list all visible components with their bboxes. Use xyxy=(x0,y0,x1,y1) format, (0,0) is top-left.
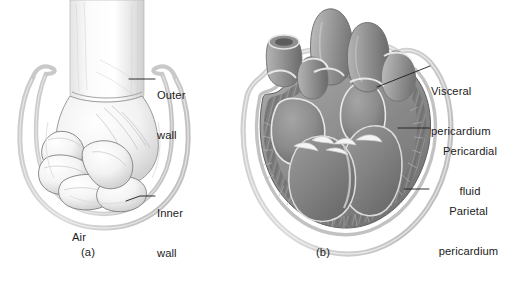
caption-panel-a: (a) xyxy=(81,246,95,258)
fist-balloon-illustration xyxy=(0,0,250,281)
label-parietal-pericardium: Parietal pericardium xyxy=(428,179,509,281)
label-visceral-line1: Visceral xyxy=(431,85,491,98)
label-outer-wall-line2: wall xyxy=(157,129,185,142)
caption-panel-b: (b) xyxy=(316,246,330,258)
label-outer-wall-line1: Outer xyxy=(157,89,185,102)
label-outer-wall: Outer wall xyxy=(157,63,185,169)
panel-b-heart-pericardium: Visceral pericardium Pericardial fluid P… xyxy=(238,0,509,281)
label-inner-wall-line1: Inner xyxy=(157,207,183,220)
label-parietal-line2: pericardium xyxy=(428,245,509,258)
panel-a-fist-balloon: Outer wall Inner wall Air (a) xyxy=(0,0,250,281)
vessel-pulmonary-vein-left xyxy=(298,57,329,99)
label-air-text: Air xyxy=(72,231,91,244)
figure-container: Outer wall Inner wall Air (a) xyxy=(0,0,509,281)
label-inner-wall: Inner wall xyxy=(157,181,183,281)
label-parietal-line1: Parietal xyxy=(428,205,509,218)
vessel-svc-opening xyxy=(275,38,293,46)
label-air: Air xyxy=(72,205,91,271)
label-inner-wall-line2: wall xyxy=(157,247,183,260)
label-fluid-line1: Pericardial xyxy=(431,145,509,158)
